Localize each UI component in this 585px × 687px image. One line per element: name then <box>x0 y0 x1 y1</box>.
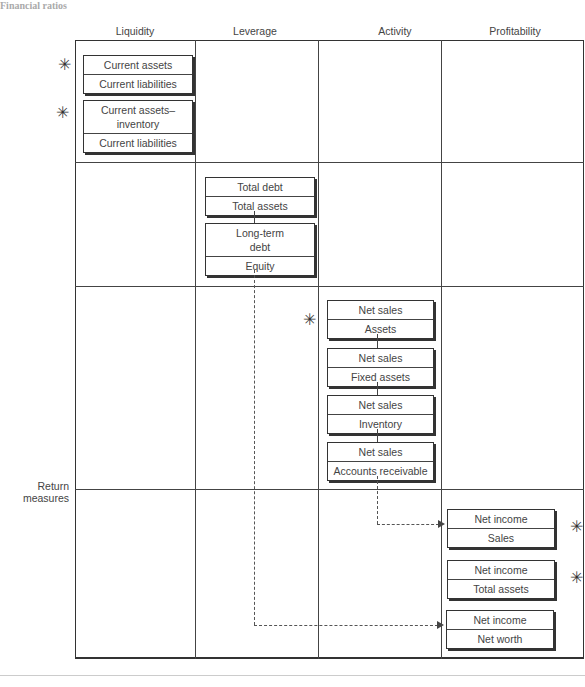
dashed-flow-line <box>254 270 255 625</box>
ratio-return-on-equity: Net income Net worth <box>446 610 554 649</box>
denominator: Total assets <box>448 580 554 598</box>
denominator: Net worth <box>447 630 553 648</box>
star-mark-icon: ✳ <box>56 105 69 121</box>
grid-divider <box>75 162 584 163</box>
connector-line <box>377 382 378 395</box>
connector-line <box>377 334 378 348</box>
numerator: Net income <box>447 611 553 630</box>
numerator: Current assets <box>84 56 192 75</box>
grid-divider <box>75 489 584 490</box>
numerator: Net sales <box>328 349 433 368</box>
denominator: Current liabilities <box>84 75 192 93</box>
column-header-leverage: Leverage <box>200 25 310 37</box>
ratio-inventory-turnover: Net sales Inventory <box>327 395 434 434</box>
ratio-profit-margin: Net income Sales <box>447 509 555 548</box>
figure-caption: Financial ratios <box>0 0 67 11</box>
dashed-flow-line <box>254 625 438 626</box>
connector-line <box>377 429 378 442</box>
denominator: Fixed assets <box>328 368 433 386</box>
ratio-quick: Current assets–inventory Current liabili… <box>83 100 193 153</box>
star-mark-icon: ✳ <box>570 570 583 586</box>
connector-line <box>254 211 255 223</box>
numerator: Net sales <box>328 301 433 320</box>
denominator: Assets <box>328 320 433 338</box>
numerator: Total debt <box>206 178 314 197</box>
column-header-activity: Activity <box>340 25 450 37</box>
denominator: Current liabilities <box>84 134 192 152</box>
ratio-fixed-asset-turnover: Net sales Fixed assets <box>327 348 434 387</box>
denominator: Equity <box>206 257 314 275</box>
grid-divider <box>75 286 584 287</box>
star-mark-icon: ✳ <box>58 57 71 73</box>
column-header-liquidity: Liquidity <box>80 25 190 37</box>
row-label-return-measures: Return measures <box>17 480 69 504</box>
star-mark-icon: ✳ <box>303 312 316 328</box>
ratio-current: Current assets Current liabilities <box>83 55 193 94</box>
numerator: Net sales <box>328 443 433 462</box>
numerator: Long-term debt <box>206 224 314 257</box>
denominator: Total assets <box>206 197 314 215</box>
dashed-flow-line <box>377 476 378 524</box>
ratio-receivables-turnover: Net sales Accounts receivable <box>327 442 434 481</box>
denominator: Sales <box>448 529 554 547</box>
column-header-profitability: Profitability <box>460 25 570 37</box>
grid-divider <box>318 40 319 659</box>
star-mark-icon: ✳ <box>570 519 583 535</box>
ratio-asset-turnover: Net sales Assets <box>327 300 434 339</box>
grid-divider <box>441 40 442 659</box>
ratio-debt-to-assets: Total debt Total assets <box>205 177 315 216</box>
numerator: Current assets–inventory <box>84 101 192 134</box>
arrow-right-icon <box>438 520 445 528</box>
numerator: Net income <box>448 561 554 580</box>
dashed-flow-line <box>377 524 439 525</box>
denominator: Inventory <box>328 415 433 433</box>
numerator: Net sales <box>328 396 433 415</box>
ratio-debt-to-equity: Long-term debt Equity <box>205 223 315 276</box>
numerator: Net income <box>448 510 554 529</box>
page-rule <box>0 675 585 676</box>
denominator: Accounts receivable <box>328 462 433 480</box>
grid-divider <box>195 40 196 659</box>
arrow-right-icon <box>437 621 444 629</box>
ratio-return-on-assets: Net income Total assets <box>447 560 555 599</box>
